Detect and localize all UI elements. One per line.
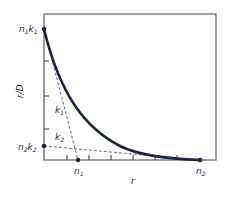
- point-n1k1: [42, 27, 47, 32]
- point-n1: [76, 158, 81, 163]
- decay-curve: [44, 29, 200, 160]
- label-n2: n2: [196, 166, 206, 177]
- y-axis-label: r/D: [15, 84, 25, 98]
- y-ticks: [44, 61, 49, 129]
- x-axis-label: r: [131, 176, 136, 186]
- label-n1k1: n1k1: [19, 24, 38, 35]
- point-n2k2: [42, 144, 47, 149]
- plot-frame: [44, 14, 216, 160]
- label-n1: n1: [74, 166, 84, 177]
- label-n2k2: n2k2: [18, 142, 37, 153]
- diagram-canvas: n1k1 n2k2 k1 k2 n1 n2 r r/D: [0, 0, 230, 197]
- label-k1: k1: [55, 105, 64, 116]
- label-k2: k2: [55, 132, 64, 143]
- point-n2: [198, 158, 203, 163]
